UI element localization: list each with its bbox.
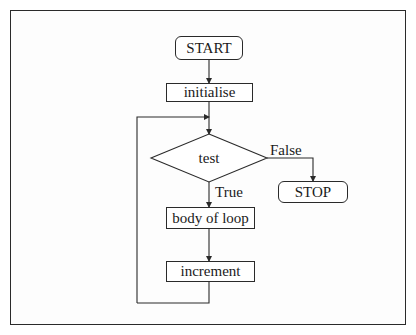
body-of-loop-process: body of loop: [166, 207, 255, 229]
true-edge-label: True: [215, 185, 243, 200]
test-label: test: [180, 151, 238, 166]
initialise-process: initialise: [166, 83, 253, 102]
edge-increment-loopback: [137, 282, 209, 303]
stop-terminal: STOP: [278, 181, 348, 203]
increment-process: increment: [166, 261, 255, 282]
edge-test-stop: [267, 158, 313, 181]
body-of-loop-label: body of loop: [172, 211, 249, 226]
increment-label: increment: [181, 264, 241, 279]
start-label: START: [186, 41, 231, 56]
initialise-label: initialise: [184, 85, 236, 100]
start-terminal: START: [175, 36, 243, 60]
stop-label: STOP: [295, 185, 331, 200]
false-edge-label: False: [270, 143, 302, 158]
